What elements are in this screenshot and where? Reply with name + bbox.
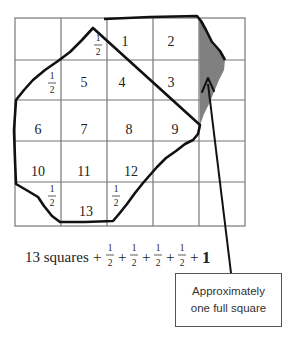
- cell-label: 12: [124, 164, 138, 179]
- fraction-denominator: 2: [50, 198, 55, 208]
- irregular-shape-outline: [14, 16, 225, 222]
- fraction-numerator: 1: [50, 71, 55, 81]
- callout-line-1: Approximately: [176, 283, 281, 300]
- fraction-denominator: 2: [180, 258, 185, 268]
- fraction-numerator: 1: [180, 243, 185, 253]
- cell-label: 6: [35, 122, 42, 137]
- cell-label: 1: [122, 34, 129, 49]
- fraction-numerator: 1: [108, 243, 113, 253]
- cell-label: 9: [172, 122, 179, 137]
- plus-sign: +: [142, 249, 150, 265]
- plus-sign: +: [118, 249, 126, 265]
- cell-label: 7: [81, 122, 88, 137]
- formula-final-term: 1: [202, 248, 211, 267]
- plus-sign: +: [190, 249, 198, 265]
- cell-label: 3: [168, 75, 175, 90]
- plus-sign: +: [166, 249, 174, 265]
- area-estimation-diagram: 1 2 3 4 5 6 7 8 9 10 11 12 13 1 2 1 2: [0, 0, 297, 344]
- fraction-denominator: 2: [96, 47, 101, 57]
- area-formula: 13 squares + 1 2 + 1 2 + 1 2 + 1: [25, 243, 211, 268]
- fraction-half: 1 2: [112, 184, 120, 208]
- fraction-numerator: 1: [156, 243, 161, 253]
- fraction-numerator: 1: [132, 243, 137, 253]
- cell-label: 5: [81, 75, 88, 90]
- fraction-half: 1 2: [48, 184, 56, 208]
- fraction-numerator: 1: [114, 184, 119, 194]
- cell-label: 11: [77, 164, 90, 179]
- formula-lead: 13 squares: [25, 249, 89, 265]
- fraction-numerator: 1: [96, 33, 101, 43]
- fraction-half: 1 2: [48, 71, 56, 95]
- callout-line-2: one full square: [176, 300, 281, 317]
- cell-label: 13: [79, 204, 93, 219]
- fraction-denominator: 2: [108, 258, 113, 268]
- cell-label: 4: [119, 75, 126, 90]
- fraction-denominator: 2: [114, 198, 119, 208]
- cell-label: 8: [126, 122, 133, 137]
- fraction-denominator: 2: [156, 258, 161, 268]
- fraction-numerator: 1: [50, 184, 55, 194]
- cell-label: 10: [31, 164, 45, 179]
- cell-label: 2: [168, 34, 175, 49]
- callout-box: Approximately one full square: [175, 273, 282, 327]
- plus-sign: +: [93, 249, 101, 265]
- fraction-denominator: 2: [132, 258, 137, 268]
- fraction-denominator: 2: [50, 85, 55, 95]
